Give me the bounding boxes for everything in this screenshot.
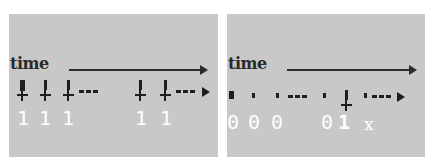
silent-marker [323, 93, 326, 98]
ellipsis-dashes [372, 95, 391, 98]
time-axis-label: time [228, 56, 267, 72]
spike-marker [135, 80, 147, 106]
silent-marker [276, 93, 279, 98]
ellipsis-dashes [288, 95, 307, 98]
time-axis-label: time [10, 56, 49, 72]
arrowhead-icon [397, 92, 405, 102]
spike-marker [160, 80, 172, 106]
silent-marker-big [229, 91, 234, 99]
bit-value-unknown: x [364, 114, 374, 134]
spike-bar [139, 80, 142, 90]
plus-icon [63, 90, 74, 101]
silent-marker [364, 93, 367, 98]
arrowhead-icon [202, 87, 210, 97]
bit-value: 0 [321, 112, 333, 132]
time-arrow-icon [287, 69, 415, 71]
plus-icon [40, 90, 51, 101]
bit-value: 0 [271, 112, 283, 132]
ellipsis-dashes [176, 90, 195, 93]
spike-bar [164, 80, 167, 90]
ellipsis-dashes [79, 90, 98, 93]
plus-icon [17, 90, 28, 101]
spike-marker [17, 80, 29, 106]
spike-train-panel-left: time 1 1 1 1 1 [9, 14, 218, 157]
bit-value: 1 [39, 108, 51, 128]
bit-value: 1 [17, 108, 29, 128]
plus-icon [160, 90, 171, 101]
bit-value: 1 [62, 108, 74, 128]
bit-value: 1 [338, 112, 350, 132]
spike-marker [40, 80, 52, 106]
bit-value: 1 [135, 108, 147, 128]
time-arrow-icon [69, 69, 206, 71]
silent-marker [252, 93, 255, 98]
spike-bar [345, 90, 348, 100]
bit-value: 0 [227, 112, 239, 132]
spike-train-panel-right: time 0 0 0 0 1 x [227, 14, 425, 157]
spike-bar [67, 80, 70, 90]
spike-marker [63, 80, 75, 106]
bit-value: 1 [160, 108, 172, 128]
spike-bar [44, 80, 47, 90]
bit-value: 0 [248, 112, 260, 132]
plus-icon [135, 90, 146, 101]
